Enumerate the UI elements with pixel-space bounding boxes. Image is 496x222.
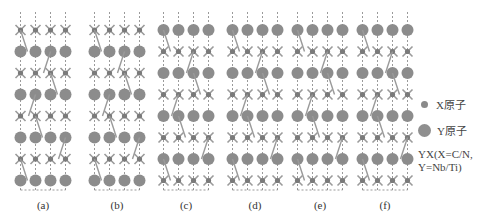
x-atom-icon [421,101,428,108]
legend-note: YX(X=C/N, Y=Nb/Ti) [418,148,473,174]
legend-y-atom: Y原子 [418,122,473,138]
legend: X原子 Y原子 YX(X=C/N, Y=Nb/Ti) [418,96,473,174]
y-atom-icon [418,124,431,137]
panel-label: (e) [314,199,326,211]
panel-label: (b) [111,199,124,211]
panel-label: (d) [249,199,262,211]
legend-x-atom: X原子 [418,96,473,112]
panel-label: (f) [380,199,391,211]
panel-label: (a) [37,199,49,211]
panel-label: (c) [180,199,192,211]
